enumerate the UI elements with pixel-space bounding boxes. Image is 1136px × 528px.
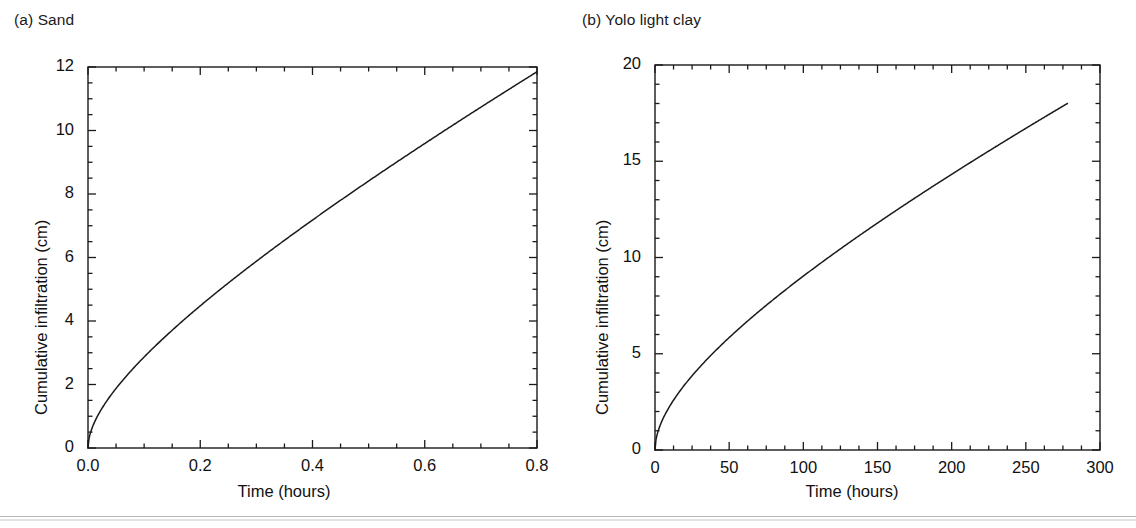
panel-a-ytick-label: 0: [0, 437, 74, 456]
panel-b-ytick-label: 0: [561, 439, 641, 458]
panel-b-xtick-label: 300: [1060, 458, 1136, 477]
panel-a-plot: [0, 0, 568, 528]
panel-b-xtick-label: 200: [912, 458, 992, 477]
panel-b-xtick-label: 50: [689, 458, 769, 477]
panel-b-ytick-label: 20: [561, 54, 641, 73]
panel-b-x-axis-title: Time (hours): [568, 482, 1136, 501]
panel-a-xtick-label: 0.2: [160, 456, 240, 475]
panel-b-ytick-label: 5: [561, 343, 641, 362]
footer-separator-soft: [0, 519, 1136, 521]
panel-a-ytick-label: 10: [0, 120, 74, 139]
panel-a-xtick-label: 0.4: [273, 456, 353, 475]
panel-b-xtick-label: 0: [615, 458, 695, 477]
infiltration-figure: (a) Sand Time (hours) Cumulative infiltr…: [0, 0, 1136, 528]
panel-a-xtick-label: 0.0: [48, 456, 128, 475]
panel-a-ytick-label: 12: [0, 56, 74, 75]
panel-a-ytick-label: 2: [0, 374, 74, 393]
panel-a-xtick-label: 0.8: [497, 456, 577, 475]
footer-separator: [0, 516, 1136, 517]
panel-a-ytick-label: 8: [0, 183, 74, 202]
panel-sand: (a) Sand Time (hours) Cumulative infiltr…: [0, 0, 568, 528]
panel-a-ytick-label: 6: [0, 247, 74, 266]
panel-a-x-axis-title: Time (hours): [0, 482, 568, 501]
panel-b-xtick-label: 150: [838, 458, 918, 477]
panel-yolo-light-clay: (b) Yolo light clay Time (hours) Cumulat…: [568, 0, 1136, 528]
panel-b-xtick-label: 100: [763, 458, 843, 477]
panel-b-xtick-label: 250: [986, 458, 1066, 477]
panel-b-ytick-label: 15: [561, 150, 641, 169]
panel-b-ytick-label: 10: [561, 247, 641, 266]
panel-a-xtick-label: 0.6: [385, 456, 465, 475]
panel-a-ytick-label: 4: [0, 310, 74, 329]
panel-b-plot: [568, 0, 1136, 528]
